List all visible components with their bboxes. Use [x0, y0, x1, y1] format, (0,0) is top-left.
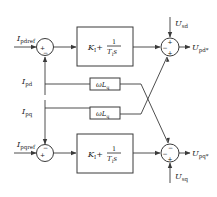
ipdref-label: Ipdref [16, 34, 36, 45]
upq-label: Upq* [192, 149, 209, 160]
ipqref-label: Ipqref [16, 140, 36, 151]
upd-label: Upd* [192, 43, 209, 54]
sign-plus: + [168, 38, 173, 45]
pi-d-num: 1 [112, 38, 116, 46]
usd-label: Usd [175, 19, 189, 29]
sign-minus: − [43, 49, 48, 56]
sign-plus: + [168, 155, 173, 162]
pi-controller-q [77, 134, 133, 173]
sign-minus: − [168, 144, 173, 151]
ipq-label: Ipq [21, 107, 33, 118]
sign-plus: + [168, 49, 173, 56]
ipd-label: Ipd [21, 77, 33, 88]
sign-minus: − [43, 144, 48, 151]
usq-label: Usq [175, 172, 189, 183]
sign-plus: + [40, 151, 45, 158]
control-block-diagram: Ipdref + − KI+ 1 TIs + − + Usd Upd* Ipd … [0, 0, 217, 197]
pi-controller-d [77, 27, 133, 66]
pi-q-num: 1 [112, 145, 116, 153]
